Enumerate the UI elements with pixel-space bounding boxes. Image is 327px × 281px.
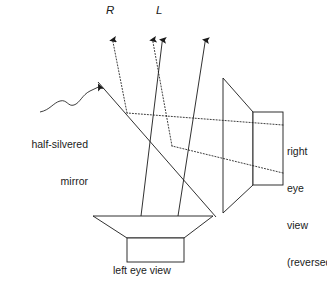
left-eye-view-monitor	[93, 216, 213, 262]
ray-label-left: L	[156, 4, 163, 18]
mirror-group	[98, 82, 216, 217]
solid-ray-paths	[141, 40, 205, 216]
left-eye-screen-face	[93, 216, 213, 238]
right-eye-label-line-4: (reversed)	[287, 256, 327, 268]
right-eye-view-monitor	[223, 78, 283, 213]
right-eye-label-line-1: right	[287, 145, 327, 157]
right-eye-monitor-body	[253, 112, 283, 185]
mirror-callout-group	[40, 87, 100, 113]
right-eye-screen-face	[223, 78, 253, 213]
dotted-ray-upper-reflected	[113, 40, 127, 113]
monitors-group	[93, 78, 283, 262]
right-eye-label-line-3: view	[287, 219, 327, 231]
half-silvered-mirror-label: half-silvered mirror	[6, 113, 88, 212]
ray-label-right: R	[106, 4, 115, 18]
left-eye-monitor-body	[127, 238, 184, 262]
right-eye-label-line-2: eye	[287, 182, 327, 194]
solid-ray-left	[141, 40, 162, 216]
right-eye-view-label: right eye view (reversed)	[287, 120, 327, 281]
mirror-label-line-2: mirror	[6, 175, 88, 187]
half-silvered-mirror-surface	[98, 82, 216, 217]
mirror-callout-pointer	[40, 87, 100, 113]
mirror-label-line-1: half-silvered	[6, 138, 88, 150]
diagram-canvas: R L half-silvered mirror right eye view …	[0, 0, 327, 281]
left-eye-view-label: left eye view	[113, 264, 171, 276]
